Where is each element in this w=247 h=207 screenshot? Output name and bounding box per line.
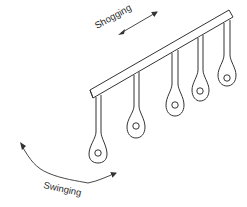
guide-needle-2 bbox=[127, 72, 145, 138]
guide-needle-4 bbox=[192, 35, 209, 101]
swinging-label: Swinging bbox=[43, 179, 83, 198]
guide-needle-1 bbox=[89, 95, 107, 163]
guide-needle-3 bbox=[166, 50, 184, 116]
guide-needles bbox=[89, 20, 236, 163]
guide-bar-diagram: Shogging Swinging bbox=[0, 0, 247, 207]
guide-needle-5 bbox=[218, 20, 236, 86]
shogging-label: Shogging bbox=[93, 2, 133, 31]
